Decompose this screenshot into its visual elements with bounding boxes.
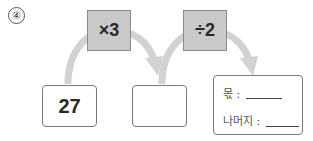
quotient-blank[interactable] bbox=[246, 98, 282, 99]
start-value-box: 27 bbox=[42, 85, 97, 127]
remainder-label: 나머지 : bbox=[223, 112, 260, 128]
multiply-operation-box: ×3 bbox=[87, 10, 131, 51]
remainder-blank[interactable] bbox=[266, 126, 299, 127]
problem-number: ④ bbox=[8, 7, 25, 24]
quotient-label: 몫 : bbox=[223, 85, 240, 101]
quotient-remainder-box: 몫 : 나머지 : bbox=[213, 75, 303, 135]
divide-operation-box: ÷2 bbox=[183, 10, 227, 51]
arrowhead-icon bbox=[240, 56, 258, 76]
middle-answer-box[interactable] bbox=[132, 85, 187, 127]
